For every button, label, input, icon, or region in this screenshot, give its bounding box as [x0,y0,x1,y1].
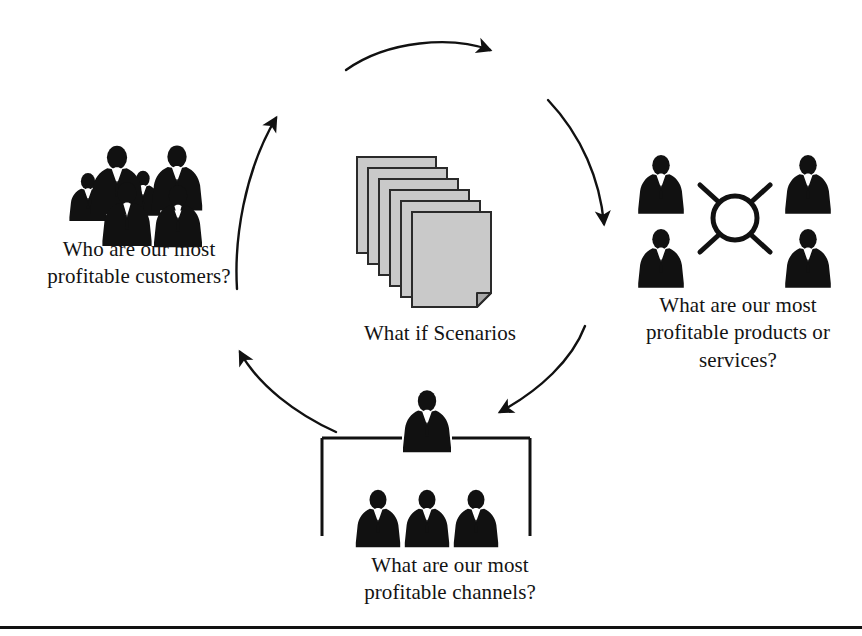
caption-what-if-scenarios: What if Scenarios [330,320,550,347]
hub-circle-icon [713,196,757,240]
arrow-upper-right-icon [548,100,604,224]
org-chart-people-icon [322,390,530,547]
crowd-of-people-icon [69,145,202,247]
bottom-divider [0,626,862,629]
caption-products: What are our most profitable products or… [614,292,862,374]
hub-and-spoke-people-icon [638,155,831,288]
caption-customers: Who are our most profitable customers? [8,236,270,291]
caption-channels: What are our most profitable channels? [318,552,582,607]
arrow-lower-left-icon [240,352,336,432]
arrow-top-icon [346,42,490,70]
document-stack-icon [357,157,491,307]
diagram-canvas: Who are our most profitable customers? W… [0,0,862,636]
